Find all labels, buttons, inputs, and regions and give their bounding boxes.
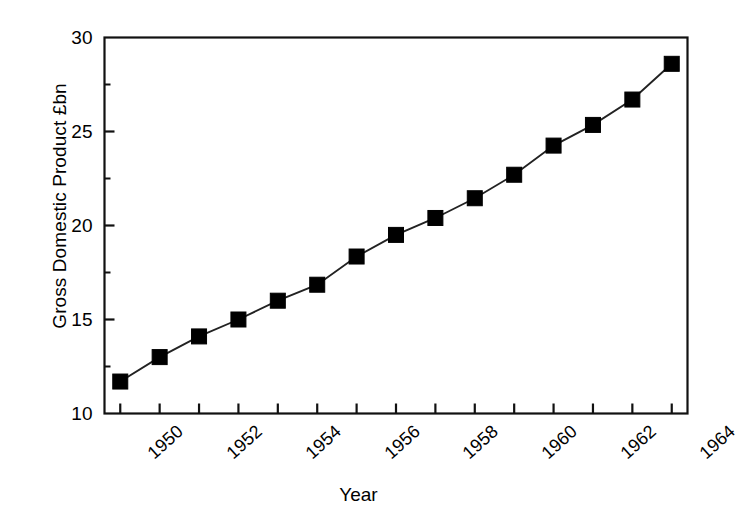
plot-frame	[105, 38, 688, 414]
